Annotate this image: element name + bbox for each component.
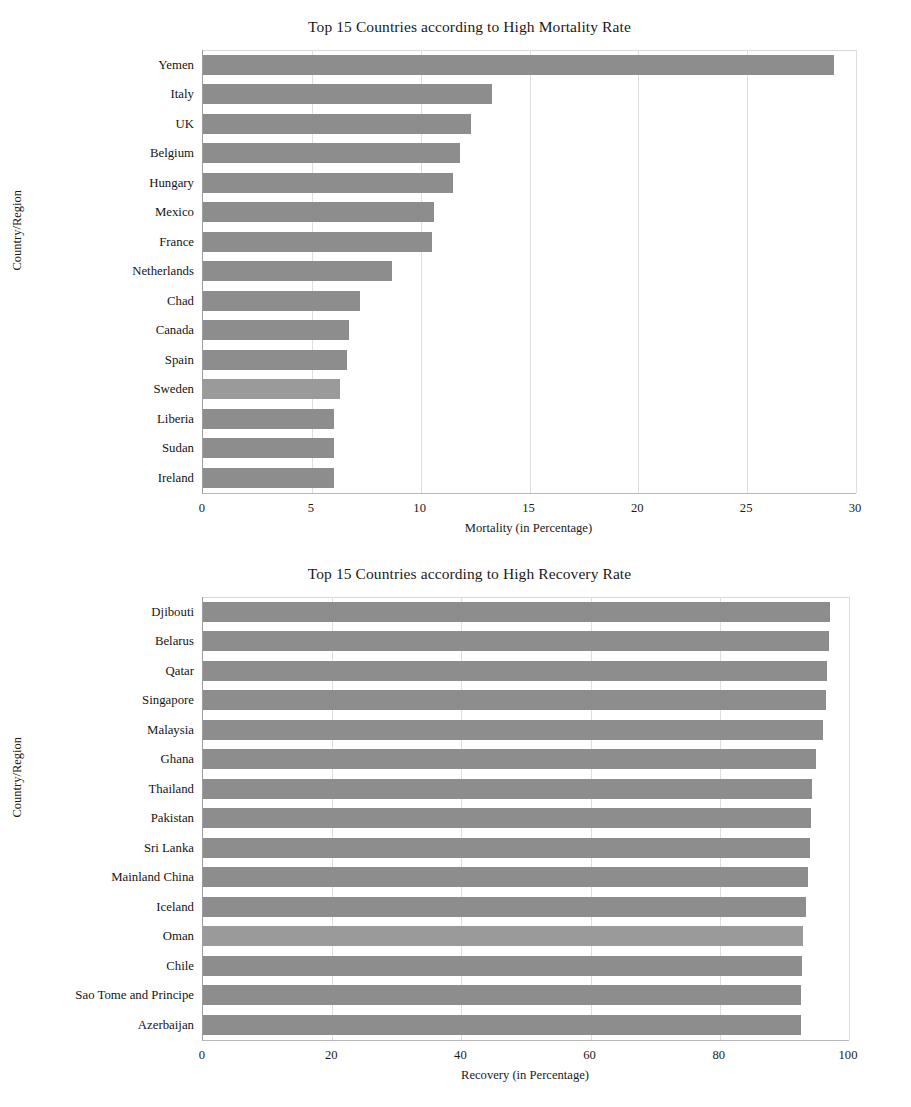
grid-line [638,50,639,493]
bar-iceland [203,897,806,917]
x-tick-label: 25 [740,502,753,515]
x-tick-label: 0 [199,502,205,515]
category-label: Sudan [162,442,194,455]
category-label: Oman [163,930,194,943]
category-label: Qatar [166,664,194,677]
x-tick-label: 80 [713,1049,726,1062]
x-tick-label: 0 [199,1049,205,1062]
bar-thailand [203,779,812,799]
chart-mortality-x-axis-title: Mortality (in Percentage) [465,521,592,536]
category-label: Azerbaijan [138,1018,194,1031]
category-label: Belarus [155,635,194,648]
bar-sweden [203,379,340,399]
category-label: Sao Tome and Principe [75,989,194,1002]
bar-singapore [203,690,826,710]
category-label: Mexico [155,206,194,219]
bar-pakistan [203,808,811,828]
bar-sao-tome-and-principe [203,985,801,1005]
category-label: Yemen [158,58,194,71]
bar-qatar [203,661,827,681]
chart-mortality-title: Top 15 Countries according to High Morta… [14,18,911,42]
grid-line [856,50,857,493]
category-label: Malaysia [147,723,194,736]
category-label: Ghana [161,753,194,766]
bar-hungary [203,173,453,193]
bar-chad [203,291,360,311]
x-tick-label: 20 [325,1049,338,1062]
bar-liberia [203,409,334,429]
chart-recovery-title: Top 15 Countries according to High Recov… [14,565,911,589]
category-label: Iceland [156,900,194,913]
x-tick-label: 100 [839,1049,858,1062]
category-label: Sweden [153,383,194,396]
chart-recovery-x-ticks: 020406080100 [202,1049,848,1065]
grid-line [747,50,748,493]
chart-mortality-plot-area [202,50,856,494]
category-label: Chile [166,959,194,972]
bar-malaysia [203,720,823,740]
bar-france [203,232,432,252]
bar-ghana [203,749,816,769]
chart-mortality: Top 15 Countries according to High Morta… [0,18,911,558]
chart-recovery: Top 15 Countries according to High Recov… [0,565,911,1105]
x-tick-label: 40 [454,1049,467,1062]
category-label: Netherlands [132,265,194,278]
category-label: Canada [156,324,194,337]
x-tick-label: 20 [631,502,644,515]
bar-sudan [203,438,334,458]
bar-italy [203,84,492,104]
category-label: Chad [167,294,194,307]
bar-mainland-china [203,867,808,887]
chart-recovery-plot-area [202,597,849,1041]
chart-mortality-category-labels: YemenItalyUKBelgiumHungaryMexicoFranceNe… [32,50,202,493]
category-label: Italy [171,88,194,101]
category-label: Hungary [149,176,194,189]
bar-belarus [203,631,829,651]
category-label: Sri Lanka [144,841,194,854]
plot-top-rule [203,597,849,598]
category-label: France [159,235,194,248]
bar-netherlands [203,261,392,281]
x-tick-label: 60 [583,1049,596,1062]
bar-canada [203,320,349,340]
category-label: Spain [165,353,194,366]
chart-recovery-x-axis-title: Recovery (in Percentage) [461,1068,589,1083]
bar-uk [203,114,471,134]
x-tick-label: 10 [413,502,426,515]
category-label: Mainland China [111,871,194,884]
bar-azerbaijan [203,1015,801,1035]
grid-line [530,50,531,493]
category-label: Thailand [149,782,194,795]
category-label: Liberia [157,412,194,425]
bar-ireland [203,468,334,488]
category-label: Ireland [158,471,194,484]
bar-oman [203,926,803,946]
category-label: Singapore [142,694,194,707]
bar-spain [203,350,347,370]
grid-line [849,597,850,1040]
category-label: Belgium [150,147,194,160]
bar-mexico [203,202,434,222]
category-label: Djibouti [151,605,194,618]
category-label: Pakistan [151,812,194,825]
bar-chile [203,956,802,976]
bar-yemen [203,55,834,75]
category-label: UK [176,117,194,130]
chart-mortality-x-ticks: 051015202530 [202,502,855,518]
bar-djibouti [203,602,830,622]
bar-sri-lanka [203,838,810,858]
x-tick-label: 5 [308,502,314,515]
bar-belgium [203,143,460,163]
x-tick-label: 30 [849,502,862,515]
chart-recovery-category-labels: DjiboutiBelarusQatarSingaporeMalaysiaGha… [32,597,202,1040]
x-tick-label: 15 [522,502,535,515]
